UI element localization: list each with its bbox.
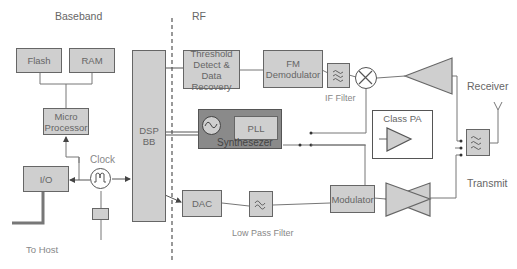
class-pa-amplifier-icon: [373, 111, 431, 157]
ram-block: RAM: [69, 48, 115, 73]
synthesizer-block: PLL Synthesezer: [198, 109, 282, 149]
transmit-label: Transmit: [467, 177, 507, 189]
threshold-detect-block: Threshold Detect & Data Recovery: [183, 50, 240, 89]
io-block: I/O: [23, 166, 69, 192]
receiver-label: Receiver: [467, 80, 508, 92]
dac-label: DAC: [192, 198, 212, 209]
duplexer-filter-block: [466, 129, 490, 156]
section-rf-title: RF: [192, 10, 206, 22]
fm-label-2: Demodulator: [266, 69, 320, 80]
filter-wave-icon: [468, 132, 488, 154]
class-pa-block: Class PA: [372, 110, 433, 159]
modulator-label: Modulator: [331, 194, 373, 205]
io-label: I/O: [40, 174, 53, 185]
oscillator-icon: [202, 116, 221, 135]
clock-oscillator-icon: [90, 168, 111, 189]
microprocessor-block: Micro Processor: [43, 108, 89, 135]
low-pass-filter-block: [249, 191, 273, 217]
dac-block: DAC: [182, 190, 222, 217]
crystal-block: [92, 208, 109, 220]
flash-block: Flash: [16, 48, 62, 73]
ram-label: RAM: [81, 55, 102, 66]
threshold-label-3: Recovery: [191, 81, 231, 92]
threshold-label-1: Threshold: [190, 48, 232, 59]
dsp-bb-block: DSP BB: [132, 50, 166, 222]
micro-label-1: Micro: [54, 111, 77, 122]
flash-label: Flash: [27, 55, 50, 66]
receiver-amplifier: [405, 58, 452, 94]
synthesizer-label: Synthesezer: [217, 137, 273, 148]
if-filter-block: [327, 63, 350, 88]
clock-label: Clock: [90, 154, 115, 165]
modulator-block: Modulator: [330, 185, 375, 213]
to-host-label: To Host: [26, 244, 58, 255]
micro-label-2: Processor: [45, 122, 88, 133]
if-filter-label: IF Filter: [325, 93, 356, 103]
pll-label: PLL: [248, 123, 265, 134]
filter-wave-icon: [330, 66, 348, 86]
section-baseband-title: Baseband: [55, 10, 102, 22]
dsp-label-2: BB: [143, 136, 156, 147]
antenna-icon: [494, 100, 502, 112]
low-pass-filter-label: Low Pass Filter: [232, 228, 294, 238]
fm-label-1: FM: [286, 58, 300, 69]
dsp-label-1: DSP: [139, 125, 159, 136]
fm-demodulator-block: FM Demodulator: [263, 50, 323, 88]
filter-wave-icon: [252, 195, 270, 213]
threshold-label-2: Detect & Data: [184, 59, 239, 81]
mixer-icon: [355, 67, 377, 89]
